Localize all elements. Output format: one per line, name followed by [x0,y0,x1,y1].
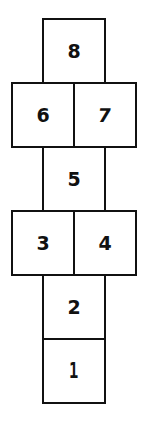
square-label: 3 [36,234,49,253]
square-5: 5 [42,146,106,213]
square-6: 6 [11,82,75,148]
square-4: 4 [73,210,137,276]
hopscotch-court: 8 6 7 5 3 4 2 1 [0,0,148,429]
square-label: 6 [36,106,49,125]
square-1: 1 [42,338,106,404]
square-label: 2 [67,298,80,317]
square-8: 8 [42,18,106,84]
square-label: 8 [67,42,80,61]
square-label: 5 [67,170,80,189]
square-2: 2 [42,274,106,340]
square-7: 7 [73,82,137,148]
square-label: 4 [98,234,111,253]
square-label: 1 [69,360,78,382]
square-3: 3 [11,210,75,276]
square-label: 7 [97,106,113,125]
